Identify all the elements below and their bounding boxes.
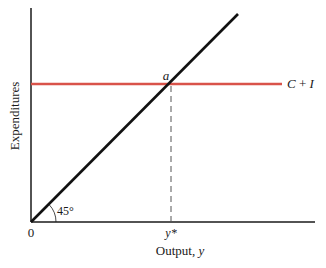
keynesian-cross-diagram: Expenditures 0 45° a C + I y* Output, y xyxy=(0,0,326,268)
y-axis-label: Expenditures xyxy=(7,82,22,151)
angle-label: 45° xyxy=(57,204,74,218)
45-degree-line xyxy=(31,14,238,222)
origin-label: 0 xyxy=(28,225,35,240)
equilibrium-output-label: y* xyxy=(164,226,176,240)
x-axis-label: Output, y xyxy=(156,243,205,258)
angle-arc xyxy=(49,205,56,223)
expenditure-line-label: C + I xyxy=(287,76,315,91)
equilibrium-point-label: a xyxy=(163,68,170,83)
